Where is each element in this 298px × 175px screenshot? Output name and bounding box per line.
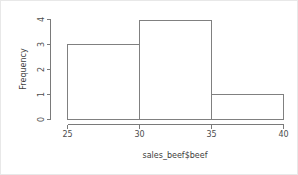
y-axis-tick-label-4: 4 <box>37 17 46 22</box>
y-axis: 4 3 2 1 0 Frequency <box>19 17 51 122</box>
histogram-bar-bin-35-40 <box>212 94 284 119</box>
x-axis-tick-label-40: 40 <box>278 130 288 139</box>
histogram-bars <box>68 20 284 119</box>
x-axis-title: sales_beef$beef <box>143 151 208 160</box>
x-axis: 25 30 35 40 sales_beef$beef <box>62 125 288 161</box>
x-axis-tick-label-30: 30 <box>134 130 144 139</box>
y-axis-tick-label-0: 0 <box>37 117 46 122</box>
y-axis-tick-label-3: 3 <box>37 42 46 47</box>
y-axis-tick-label-1: 1 <box>37 92 46 97</box>
y-axis-title: Frequency <box>19 48 28 90</box>
x-axis-tick-label-35: 35 <box>206 130 216 139</box>
histogram-chart: 4 3 2 1 0 Frequency 25 30 35 40 sales_be… <box>1 1 298 175</box>
histogram-bar-bin-30-35 <box>140 20 212 119</box>
histogram-plot-image: 4 3 2 1 0 Frequency 25 30 35 40 sales_be… <box>0 0 298 175</box>
y-axis-tick-label-2: 2 <box>37 67 46 72</box>
histogram-bar-bin-25-30 <box>68 45 140 119</box>
x-axis-tick-label-25: 25 <box>62 130 72 139</box>
